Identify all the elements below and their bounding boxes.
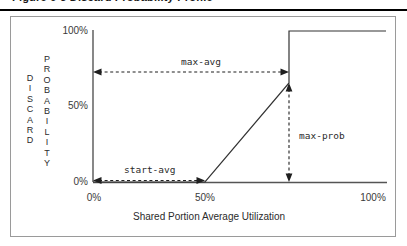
max-avg-right-arrowhead	[281, 69, 290, 76]
x-tick-label-0: 0%	[82, 192, 106, 203]
vertical-letter: S	[24, 94, 36, 104]
annotation-label-start-avg: start-avg	[124, 164, 175, 175]
screenshot-root: Figure 6-3 Discard Probability Profile	[0, 0, 407, 246]
vertical-letter: I	[41, 116, 53, 126]
chart-canvas	[0, 0, 407, 246]
vertical-letter: R	[24, 125, 36, 135]
vertical-letter: I	[41, 137, 53, 147]
max-prob-top-arrowhead	[286, 83, 293, 92]
vertical-letter: Y	[41, 158, 53, 168]
y-axis-label-discard-letters: DISCARD	[24, 73, 36, 146]
x-axis-title: Shared Portion Average Utilization	[133, 211, 285, 222]
vertical-letter: C	[24, 104, 36, 114]
max-avg-left-arrowhead	[93, 69, 102, 76]
vertical-letter: D	[24, 73, 36, 83]
vertical-letter: A	[41, 96, 53, 106]
y-axis-label-probability: PROBABILITY	[41, 54, 53, 168]
discard-probability-curve	[93, 31, 386, 182]
y-tick-label-0: 0%	[56, 176, 88, 187]
vertical-letter: P	[41, 54, 53, 64]
annotation-max-prob	[286, 83, 293, 182]
y-tick-label-100: 100%	[56, 25, 88, 36]
vertical-letter: L	[41, 127, 53, 137]
x-tick-label-100: 100%	[358, 192, 388, 203]
vertical-letter: R	[41, 64, 53, 74]
vertical-letter: O	[41, 75, 53, 85]
annotation-label-max-avg: max-avg	[181, 56, 221, 67]
y-axis-label-discard: DISCARD	[24, 73, 36, 146]
x-tick-label-50: 50%	[193, 192, 217, 203]
vertical-letter: D	[24, 135, 36, 145]
y-axis-label-probability-letters: PROBABILITY	[41, 54, 53, 168]
max-prob-bottom-arrowhead	[286, 174, 293, 183]
annotation-max-avg	[93, 69, 289, 76]
vertical-letter: T	[41, 148, 53, 158]
vertical-letter: I	[24, 83, 36, 93]
vertical-letter: B	[41, 85, 53, 95]
y-tick-label-50: 50%	[56, 100, 88, 111]
vertical-letter: B	[41, 106, 53, 116]
annotation-label-max-prob: max-prob	[299, 130, 345, 141]
vertical-letter: A	[24, 115, 36, 125]
